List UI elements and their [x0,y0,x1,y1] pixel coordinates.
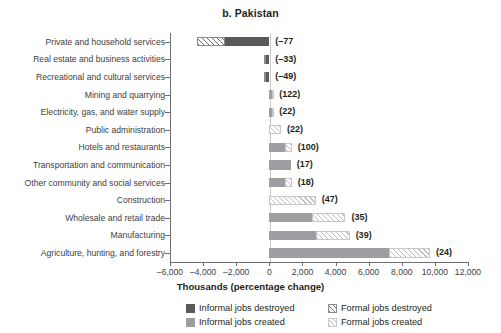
formal-created-swatch [328,318,337,327]
y-axis-tick [165,147,170,148]
bar-segment-informal-destroyed [266,55,270,64]
y-axis-tick [165,59,170,60]
bar-row: Wholesale and retail trade(35) [0,209,501,227]
category-label: Other community and social services [25,178,165,188]
bar-value-label: (35) [351,212,367,222]
bar-value-label: (22) [279,106,295,116]
x-axis-tick [435,262,436,266]
category-label: Transportation and communication [33,160,165,170]
bar-value-label: (–77 [275,36,293,46]
y-axis-tick [165,165,170,166]
bar-row: Private and household services(–77 [0,33,501,51]
bar-value-label: (22) [287,124,303,134]
x-axis-tick [336,262,337,266]
y-axis-tick [165,200,170,201]
bar-segment-formal-created [389,248,430,257]
bar-segment-formal-destroyed [264,72,266,81]
bar-value-label: (39) [356,230,372,240]
x-axis-tick-label: 6,000 [358,267,380,277]
x-axis-title: Thousands (percentage change) [0,281,501,292]
bar-segment-informal-destroyed [225,37,270,46]
x-axis-tick [369,262,370,266]
bar-row: Construction(47) [0,191,501,209]
legend-item: Informal jobs destroyed [186,303,295,314]
y-axis-tick [165,235,170,236]
x-axis-tick-label: 2,000 [292,267,314,277]
formal-destroyed-swatch [328,304,337,313]
legend-label: Formal jobs created [341,317,422,328]
informal-destroyed-swatch [186,304,195,313]
category-label: Mining and quarrying [85,90,165,100]
bar-row: Manufacturing(39) [0,227,501,245]
y-axis-tick [165,253,170,254]
y-axis-tick [165,218,170,219]
bar-segment-formal-created [312,213,345,222]
bar-segment-formal-destroyed [264,55,266,64]
bar-value-label: (17) [297,159,313,169]
bar-segment-informal-created [269,248,389,257]
category-label: Agriculture, hunting, and forestry [41,248,165,258]
x-axis-tick [203,262,204,266]
y-axis-tick [165,77,170,78]
chart-title: b. Pakistan [0,7,501,19]
legend-label: Formal jobs destroyed [341,303,432,314]
bar-row: Hotels and restaurants(100) [0,139,501,157]
bar-value-label: (–49) [275,71,296,81]
bar-row: Agriculture, hunting, and forestry(24) [0,244,501,262]
bar-segment-formal-created [285,178,292,187]
bar-segment-informal-destroyed [266,72,270,81]
informal-created-swatch [186,318,195,327]
y-axis-tick [165,42,170,43]
y-axis-tick [165,183,170,184]
bar-segment-informal-created [269,213,312,222]
legend-item: Formal jobs destroyed [328,303,432,314]
y-axis-tick [165,95,170,96]
bar-row: Real estate and business activities(–33) [0,51,501,69]
bar-segment-formal-created [269,196,315,205]
bar-segment-informal-created [269,160,291,169]
bar-value-label: (24) [436,247,452,257]
legend-item: Formal jobs created [328,317,422,328]
bar-row: Electricity, gas, and water supply(22) [0,103,501,121]
bar-value-label: (47) [322,194,338,204]
bar-segment-formal-created [272,90,274,99]
x-axis-tick-label: 8,000 [391,267,413,277]
legend-label: Informal jobs created [199,317,285,328]
bar-value-label: (–33) [275,54,296,64]
category-label: Manufacturing [111,230,165,240]
x-axis-tick-label: –2,000 [223,267,249,277]
x-axis-tick-label: –4,000 [190,267,216,277]
x-axis-tick-label: 0 [267,267,272,277]
bar-segment-formal-created [269,125,281,134]
x-axis-tick-label: 12,000 [455,267,481,277]
bar-row: Mining and quarrying(122) [0,86,501,104]
x-axis-tick-label: –6,000 [157,267,183,277]
bar-segment-informal-created [269,178,284,187]
category-label: Private and household services [46,37,165,47]
bar-segment-informal-created [269,143,284,152]
y-axis-tick [165,130,170,131]
x-axis-tick [170,262,171,266]
x-axis-tick-label: 10,000 [422,267,448,277]
x-axis-tick [269,262,270,266]
bar-segment-formal-created [316,231,350,240]
bar-value-label: (100) [298,142,319,152]
bar-segment-informal-created [269,231,315,240]
bar-value-label: (122) [279,89,300,99]
bar-row: Transportation and communication(17) [0,156,501,174]
category-label: Real estate and business activities [33,54,165,64]
bar-row: Recreational and cultural services(–49) [0,68,501,86]
category-label: Recreational and cultural services [36,72,165,82]
x-axis-tick [236,262,237,266]
bar-segment-formal-created [285,143,292,152]
bar-segment-formal-created [272,108,274,117]
category-label: Hotels and restaurants [79,142,165,152]
chart-legend: Informal jobs destroyedFormal jobs destr… [0,303,501,333]
category-label: Electricity, gas, and water supply [40,107,165,117]
legend-item: Informal jobs created [186,317,285,328]
category-label: Public administration [86,125,165,135]
bar-row: Public administration(22) [0,121,501,139]
y-axis-tick [165,112,170,113]
x-axis-tick [302,262,303,266]
bar-rows: Private and household services(–77Real e… [0,33,501,262]
